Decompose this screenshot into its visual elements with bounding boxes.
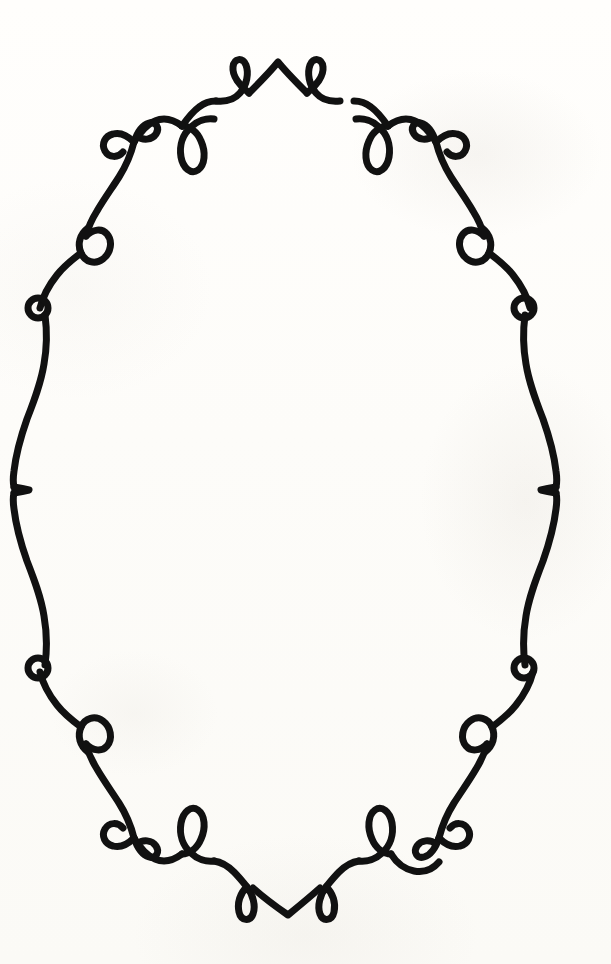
- corner-scurl-bottom-right-lower: [415, 838, 439, 857]
- corner-loop-bottom-right: [463, 718, 494, 752]
- bottom-left-quadrant: [13, 493, 247, 887]
- bottom-center-valley: [253, 888, 320, 915]
- bottom-hanging-loop-right: [359, 808, 393, 861]
- bottom-left-ascender: [40, 672, 81, 727]
- left-edge-upper: [13, 315, 46, 487]
- top-center-peak: [249, 62, 307, 93]
- top-left-quadrant: [13, 101, 216, 487]
- right-edge-upper: [524, 315, 557, 487]
- bottom-hanging-loop-left: [180, 808, 214, 861]
- top-hanging-loop-left: [180, 119, 214, 172]
- top-right-quadrant: [354, 101, 557, 487]
- top-inner-loop-right: [307, 60, 340, 102]
- top-inner-loop-left: [216, 60, 249, 102]
- corner-loop-top-left: [79, 228, 110, 262]
- bottom-right-quadrant: [326, 493, 557, 887]
- left-edge-lower: [13, 493, 46, 665]
- bottom-center-group: [238, 887, 334, 919]
- bottom-left-lower-arc: [214, 861, 247, 887]
- top-center-group: [216, 60, 340, 102]
- bottom-inner-loop-left: [238, 887, 254, 919]
- right-edge-lower: [524, 493, 557, 665]
- decorative-oval-frame: Decorative Oval Flourish Frame: [0, 0, 611, 964]
- bottom-inner-loop-right: [319, 887, 335, 919]
- artwork-canvas: Decorative Oval Flourish Frame: [0, 0, 611, 964]
- bottom-right-lower-arc: [326, 861, 359, 887]
- corner-scurl-top-left-upper: [134, 123, 158, 142]
- top-right-descender: [489, 253, 530, 308]
